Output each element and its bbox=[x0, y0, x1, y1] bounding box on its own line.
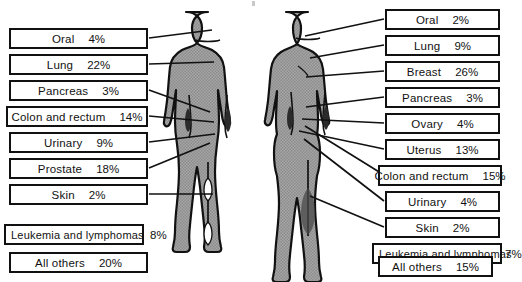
left-item-2-label: Pancreas bbox=[38, 85, 88, 97]
right-item-1-pct: 9% bbox=[454, 40, 471, 52]
top-artifact-mark bbox=[252, 1, 255, 6]
right-item-10-label: All others bbox=[392, 261, 442, 273]
left-item-2[interactable]: Pancreas 3% bbox=[9, 80, 148, 101]
right-item-6-label: Colon and rectum bbox=[375, 170, 469, 182]
left-item-4-pct: 9% bbox=[96, 137, 113, 149]
right-item-1[interactable]: Lung 9% bbox=[385, 35, 500, 56]
left-item-0[interactable]: Oral 4% bbox=[9, 28, 148, 49]
left-item-7[interactable]: Leukemia and lymphomas bbox=[4, 224, 144, 245]
right-item-7-pct: 4% bbox=[460, 196, 477, 208]
left-item-5-label: Prostate bbox=[38, 163, 82, 175]
left-item-0-pct: 4% bbox=[88, 33, 105, 45]
left-item-2-pct: 3% bbox=[102, 85, 119, 97]
left-item-5[interactable]: Prostate 18% bbox=[9, 158, 148, 179]
right-item-6[interactable]: Colon and rectum 15% bbox=[378, 165, 502, 186]
left-item-6[interactable]: Skin 2% bbox=[9, 184, 148, 205]
right-item-8-label: Skin bbox=[416, 222, 439, 234]
right-item-7[interactable]: Urinary 4% bbox=[385, 191, 500, 212]
left-item-8-label: All others bbox=[35, 257, 85, 269]
left-item-4-label: Urinary bbox=[44, 137, 82, 149]
left-item-6-pct: 2% bbox=[89, 189, 106, 201]
right-item-1-label: Lung bbox=[414, 40, 440, 52]
right-item-5[interactable]: Uterus 13% bbox=[385, 139, 500, 160]
right-item-0-label: Oral bbox=[416, 14, 439, 26]
right-item-10[interactable]: All others 15% bbox=[378, 256, 493, 277]
right-item-0-pct: 2% bbox=[452, 14, 469, 26]
left-item-1-pct: 22% bbox=[87, 59, 110, 71]
right-item-4-pct: 4% bbox=[457, 118, 474, 130]
right-item-4-label: Ovary bbox=[411, 118, 443, 130]
left-item-3-pct: 14% bbox=[119, 111, 142, 123]
right-item-6-pct: 15% bbox=[482, 170, 505, 182]
right-item-3[interactable]: Pancreas 3% bbox=[385, 87, 500, 108]
male-body-figure bbox=[164, 12, 231, 252]
right-item-7-label: Urinary bbox=[408, 196, 446, 208]
right-item-2-pct: 26% bbox=[455, 66, 478, 78]
right-item-3-label: Pancreas bbox=[402, 92, 452, 104]
left-item-1-label: Lung bbox=[47, 59, 73, 71]
right-item-5-pct: 13% bbox=[456, 144, 479, 156]
left-item-8-pct: 20% bbox=[99, 257, 122, 269]
right-item-5-label: Uterus bbox=[406, 144, 441, 156]
right-item-0[interactable]: Oral 2% bbox=[385, 9, 500, 30]
female-body-figure bbox=[265, 12, 329, 282]
left-item-7-pct: 8% bbox=[150, 224, 167, 245]
left-item-8[interactable]: All others 20% bbox=[9, 252, 148, 273]
right-item-2[interactable]: Breast 26% bbox=[385, 61, 500, 82]
left-item-5-pct: 18% bbox=[96, 163, 119, 175]
left-item-6-label: Skin bbox=[52, 189, 75, 201]
right-item-9-pct: 7% bbox=[505, 243, 522, 264]
left-item-3-label: Colon and rectum bbox=[11, 111, 105, 123]
right-item-8-pct: 2% bbox=[453, 222, 470, 234]
left-item-0-label: Oral bbox=[52, 33, 75, 45]
left-item-7-label: Leukemia and lymphomas bbox=[11, 229, 144, 241]
left-item-1[interactable]: Lung 22% bbox=[9, 54, 148, 75]
right-item-4[interactable]: Ovary 4% bbox=[385, 113, 500, 134]
right-item-8[interactable]: Skin 2% bbox=[385, 217, 500, 238]
left-item-4[interactable]: Urinary 9% bbox=[9, 132, 148, 153]
right-item-2-label: Breast bbox=[407, 66, 441, 78]
right-item-10-pct: 15% bbox=[456, 261, 479, 273]
left-item-3[interactable]: Colon and rectum 14% bbox=[6, 106, 148, 127]
right-item-3-pct: 3% bbox=[466, 92, 483, 104]
